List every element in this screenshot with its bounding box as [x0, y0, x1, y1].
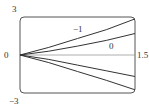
curve-4: [20, 55, 135, 90]
x-max-label: 1.5: [137, 50, 149, 60]
curve-label-minus-one: −1: [73, 24, 83, 34]
curve-label-zero: 0: [109, 41, 114, 51]
x-origin-label: 0: [4, 50, 9, 60]
curve-2: [20, 34, 135, 56]
y-max-label: 3: [12, 4, 17, 14]
y-min-label: −3: [9, 96, 19, 106]
chart: 3 −3 0 1.5 −1 0: [0, 0, 149, 112]
curve-3: [20, 55, 135, 77]
